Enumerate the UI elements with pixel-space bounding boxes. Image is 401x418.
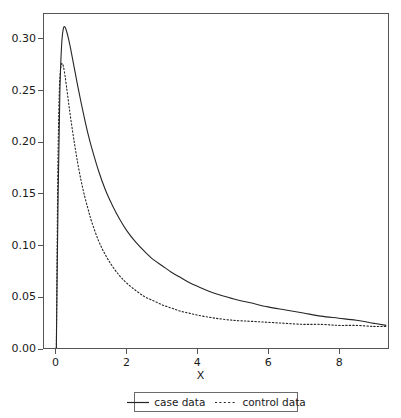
x-tick-label: 0 <box>40 357 70 368</box>
chart-figure: 0.000.050.100.150.200.250.30 02468 X cas… <box>0 0 401 418</box>
legend-label-case-data: case data <box>154 397 205 408</box>
x-axis-title-text: X <box>197 369 205 382</box>
x-tick-label: 6 <box>253 357 283 368</box>
x-tick-mark <box>268 349 269 354</box>
x-axis-title: X <box>0 370 401 382</box>
legend-entry-case-data: case data <box>126 397 205 408</box>
legend: case data control data <box>134 392 298 412</box>
x-tick-label: 2 <box>111 357 141 368</box>
legend-entry-control-data: control data <box>214 397 305 408</box>
x-axis-ticks-and-labels: 02468 <box>0 0 401 418</box>
x-tick-mark <box>197 349 198 354</box>
legend-label-control-data: control data <box>242 397 305 408</box>
x-tick-label: 4 <box>182 357 212 368</box>
legend-swatch-solid-line-icon <box>126 399 150 406</box>
legend-swatch-dotted-line-icon <box>214 399 238 406</box>
x-tick-label: 8 <box>324 357 354 368</box>
x-tick-mark <box>339 349 340 354</box>
x-tick-mark <box>126 349 127 354</box>
x-tick-mark <box>55 349 56 354</box>
